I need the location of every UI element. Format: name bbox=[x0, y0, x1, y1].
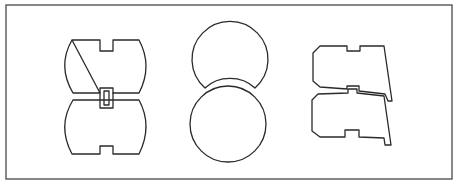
center-tab-slot bbox=[104, 91, 109, 105]
upper-barrel-plate bbox=[65, 40, 146, 93]
upper-circle-disc bbox=[192, 21, 268, 88]
diagram-canvas bbox=[0, 0, 457, 181]
upper-stepped-plate bbox=[313, 46, 392, 101]
stepped-plate-pair bbox=[312, 46, 392, 145]
lower-stepped-plate bbox=[312, 89, 391, 145]
circle-pair bbox=[190, 21, 268, 162]
notched-barrel-pair bbox=[65, 40, 146, 154]
lower-circle-disc bbox=[190, 86, 266, 162]
